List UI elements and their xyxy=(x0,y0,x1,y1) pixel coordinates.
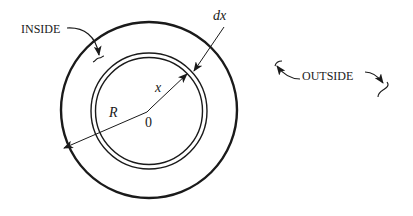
outside-left-squiggle xyxy=(275,61,282,66)
origin-label: 0 xyxy=(145,115,152,130)
r-label: R xyxy=(108,105,118,120)
outside-right-arrow xyxy=(365,72,383,83)
outside-right-squiggle xyxy=(378,82,388,97)
radius-x-arrow xyxy=(147,74,187,112)
dx-label: dx xyxy=(213,8,227,23)
dx-arrow xyxy=(194,27,224,71)
inside-squiggle xyxy=(93,56,104,62)
outside-left-arrow xyxy=(277,66,300,79)
outside-label: OUTSIDE xyxy=(302,69,353,83)
inside-label: INSIDE xyxy=(21,22,60,36)
concentric-shell-diagram: INSIDE OUTSIDE dx x R 0 xyxy=(0,0,413,216)
x-label: x xyxy=(154,80,162,95)
